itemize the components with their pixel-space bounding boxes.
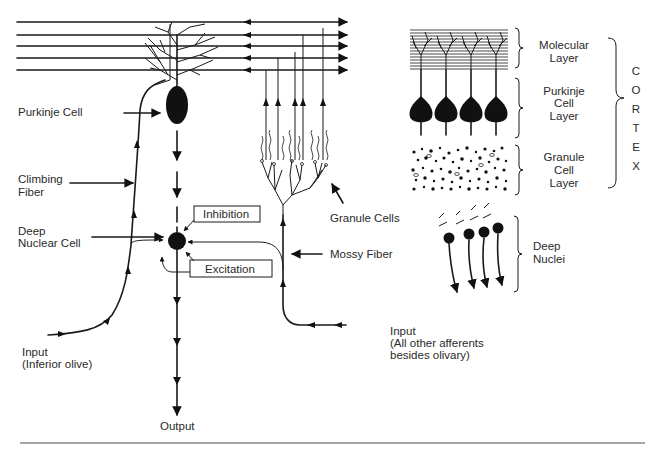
cerebellum-circuit-diagram: Purkinje Cell Climbing Fiber Deep Nuclea…	[0, 0, 655, 452]
molecular-layer-label-line1: Molecular	[539, 39, 589, 51]
input-other-label-line2: (All other afferents	[390, 337, 484, 349]
mossy-fiber-label: Mossy Fiber	[330, 248, 393, 260]
granule-cells-label: Granule Cells	[330, 212, 400, 224]
deep-nuclei-illustration	[439, 203, 522, 292]
purkinje-cell-label: Purkinje Cell	[18, 106, 83, 118]
purkinje-cell-layer-illustration	[409, 70, 507, 135]
granule-cells-pointer	[332, 184, 343, 203]
input-olive-label-line2: (Inferior olive)	[22, 358, 92, 370]
svg-text:R: R	[632, 103, 640, 115]
granule-cell-layer-illustration	[411, 146, 507, 191]
deep-nuclei-label-line2: Nuclei	[533, 253, 565, 265]
inhibition-callout: Inhibition	[184, 206, 260, 231]
molecular-layer-illustration	[410, 30, 508, 70]
excitation-callout: Excitation	[162, 252, 272, 277]
deep-nuclei-label-line1: Deep	[533, 240, 561, 252]
output-label: Output	[160, 420, 195, 432]
purkinje-layer-label-line3: Layer	[550, 110, 579, 122]
granule-layer-label-line3: Layer	[550, 177, 579, 189]
purkinje-layer-label-line2: Cell	[554, 97, 574, 109]
purkinje-layer-label-line1: Purkinje	[543, 85, 585, 97]
svg-text:O: O	[632, 84, 641, 96]
input-other-label-line1: Input	[390, 325, 416, 337]
purkinje-cell-soma	[166, 86, 188, 124]
granule-layer-label-line2: Cell	[554, 164, 574, 176]
inhibition-label: Inhibition	[203, 208, 249, 220]
output-pathway	[173, 250, 181, 415]
molecular-layer-label-line2: Layer	[550, 52, 579, 64]
purkinje-dendrites	[145, 22, 218, 90]
parallel-fibers	[17, 19, 347, 73]
input-olive-label-line1: Input	[22, 346, 48, 358]
svg-text:E: E	[632, 141, 640, 153]
svg-text:C: C	[632, 65, 640, 77]
cortex-vertical-label: C O R T E X	[632, 65, 641, 172]
input-other-label-line3: besides olivary)	[390, 349, 470, 361]
deep-nuclear-label-line2: Nuclear Cell	[18, 237, 81, 249]
granule-layer-label-line1: Granule	[544, 151, 585, 163]
deep-nuclear-cell	[168, 232, 186, 250]
granule-cells	[261, 28, 329, 215]
svg-text:T: T	[632, 122, 639, 134]
climbing-fiber-label-line2: Fiber	[18, 186, 44, 198]
deep-nuclear-label-line1: Deep	[18, 225, 46, 237]
climbing-fiber-label-line1: Climbing	[18, 173, 63, 185]
excitation-label: Excitation	[205, 263, 255, 275]
climbing-fiber	[48, 80, 165, 337]
svg-text:X: X	[632, 160, 640, 172]
